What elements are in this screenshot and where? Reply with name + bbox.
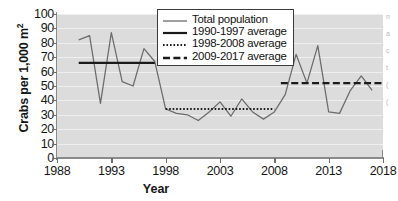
y-tick-mark (52, 129, 57, 130)
x-tick-mark (220, 158, 221, 163)
square-unit-superscript: 2 (15, 24, 25, 29)
x-axis-title: Year (0, 182, 396, 196)
x-tick-mark (329, 158, 330, 163)
margin-text-fragment: ( (386, 93, 398, 110)
margin-text-fragment: c (386, 42, 398, 59)
y-tick-mark (52, 57, 57, 58)
x-tick-label: 1998 (152, 165, 179, 178)
margin-text-fragment: a (386, 25, 398, 42)
x-tick-label: 1988 (44, 165, 71, 178)
legend-swatch-dotted (162, 37, 188, 49)
y-tick-mark (52, 158, 57, 159)
page-margin-text: nact(( (386, 8, 398, 110)
x-tick-label: 2018 (370, 165, 397, 178)
y-tick-mark (52, 28, 57, 29)
x-tick-mark (383, 158, 384, 163)
legend-label: 2009-2017 average (192, 50, 287, 62)
legend-item: 1990-1997 average (162, 25, 287, 37)
legend-item: 1998-2008 average (162, 37, 287, 49)
x-tick-mark (166, 158, 167, 163)
x-tick-mark (274, 158, 275, 163)
y-tick-mark (52, 144, 57, 145)
x-tick-label: 1993 (98, 165, 125, 178)
y-tick-mark (52, 100, 57, 101)
legend-item: 2009-2017 average (162, 50, 287, 62)
y-axis-title: Crabs per 1,000 m2 (15, 8, 31, 148)
legend-label: 1990-1997 average (192, 25, 287, 37)
x-tick-mark (111, 158, 112, 163)
legend-swatch-solid-thin (162, 13, 188, 25)
margin-text-fragment: ( (386, 76, 398, 93)
y-tick-mark (52, 72, 57, 73)
legend-swatch-dashed (162, 50, 188, 62)
legend-label: 1998-2008 average (192, 37, 287, 49)
x-tick-mark (57, 158, 58, 163)
y-tick-label: 0 (18, 152, 54, 165)
y-tick-mark (52, 115, 57, 116)
legend-label: Total population (192, 13, 268, 25)
x-tick-label: 2003 (207, 165, 234, 178)
margin-text-fragment: n (386, 8, 398, 25)
margin-text-fragment: t (386, 59, 398, 76)
y-tick-mark (52, 86, 57, 87)
x-tick-label: 2013 (315, 165, 342, 178)
y-tick-mark (52, 43, 57, 44)
legend-swatch-solid-thick (162, 25, 188, 37)
chart-legend: Total population1990-1997 average1998-20… (157, 9, 294, 66)
x-tick-label: 2008 (261, 165, 288, 178)
y-tick-mark (52, 14, 57, 15)
x-axis-title-text: Year (143, 182, 169, 196)
legend-item: Total population (162, 13, 287, 25)
